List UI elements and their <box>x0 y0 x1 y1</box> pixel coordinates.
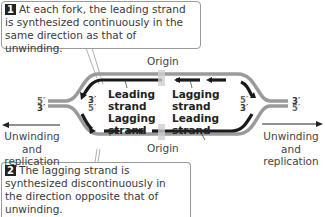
left-leading-strand-label: Leading strand <box>108 88 155 112</box>
origin-marker-top <box>158 70 165 86</box>
left-lagging-strand-label: Lagging strand <box>108 112 155 136</box>
right-lagging-strand-label: Lagging strand <box>172 88 219 112</box>
callout-text: At each fork, the leading strand is synt… <box>5 3 186 54</box>
end-label: 5′ <box>292 104 300 112</box>
right-direction-label: Unwinding and replication <box>260 130 322 168</box>
origin-marker-bottom <box>158 124 165 140</box>
callout-2-leader <box>98 149 100 162</box>
origin-label-bottom: Origin <box>147 142 179 154</box>
left-direction-label: Unwinding and replication <box>2 130 62 168</box>
origin-label-top: Origin <box>147 55 179 67</box>
callout-text: The lagging strand is synthesized discon… <box>5 164 166 215</box>
parental-strands <box>48 74 288 134</box>
callout-leading-strand: 1At each fork, the leading strand is syn… <box>1 1 201 49</box>
step-number-badge: 1 <box>5 4 16 15</box>
end-label: 3′ <box>37 104 45 112</box>
end-label: 5′ <box>88 104 96 112</box>
callout-lagging-strand: 2The lagging strand is synthesized disco… <box>1 162 191 217</box>
end-label: 3′ <box>240 104 248 112</box>
right-leading-strand-label: Leading strand <box>172 112 219 136</box>
